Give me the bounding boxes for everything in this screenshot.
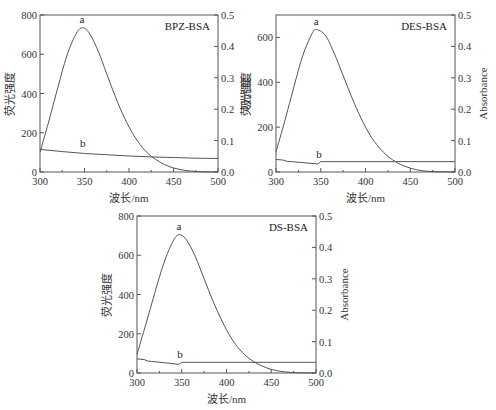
y-left-tick-label: 400 bbox=[21, 89, 37, 100]
panel-title: DS-BSA bbox=[269, 221, 308, 233]
chart-panel-2: 30035040045050002004006000.00.10.20.30.4… bbox=[239, 10, 489, 204]
y-right-axis-title: Absorbance bbox=[477, 67, 489, 120]
y-left-tick-label: 800 bbox=[21, 10, 37, 21]
y-left-tick-label: 400 bbox=[257, 77, 273, 88]
y-left-tick-label: 600 bbox=[257, 32, 273, 43]
y-left-tick-label: 0 bbox=[32, 167, 37, 178]
curve-a bbox=[276, 30, 455, 172]
y-right-tick-label: 0.5 bbox=[319, 211, 332, 222]
y-left-tick-label: 200 bbox=[257, 122, 273, 133]
curve-b bbox=[40, 149, 218, 158]
y-right-tick-label: 0.4 bbox=[458, 41, 472, 52]
curve-label-b: b bbox=[177, 348, 183, 360]
y-left-axis-title: 荧光强度 bbox=[239, 72, 252, 116]
curve-label-b: b bbox=[316, 148, 322, 160]
x-axis-title: 波长/nm bbox=[346, 192, 386, 204]
y-right-tick-label: 0.3 bbox=[458, 73, 471, 84]
plot-frame bbox=[276, 15, 455, 172]
curve-a bbox=[40, 28, 218, 172]
y-right-tick-label: 0.0 bbox=[319, 368, 332, 379]
y-right-tick-label: 0.2 bbox=[221, 104, 234, 115]
x-tick-label: 450 bbox=[402, 176, 418, 187]
x-tick-label: 350 bbox=[313, 176, 329, 187]
x-tick-label: 450 bbox=[263, 377, 279, 388]
y-right-tick-label: 0.0 bbox=[221, 167, 234, 178]
y-right-tick-label: 0.3 bbox=[221, 73, 234, 84]
curve-label-a: a bbox=[314, 15, 319, 27]
curve-b bbox=[276, 159, 455, 163]
chart-panel-1: 30035040045050002004006008000.00.10.20.3… bbox=[3, 10, 252, 204]
x-tick-label: 400 bbox=[358, 176, 374, 187]
y-left-tick-label: 600 bbox=[21, 49, 37, 60]
x-tick-label: 350 bbox=[174, 377, 190, 388]
curve-a bbox=[137, 235, 316, 373]
y-left-axis-title: 荧光强度 bbox=[100, 273, 113, 317]
panel-title: BPZ-BSA bbox=[165, 20, 210, 32]
y-right-tick-label: 0.0 bbox=[458, 167, 471, 178]
x-axis-title: 波长/nm bbox=[109, 192, 149, 204]
y-right-tick-label: 0.1 bbox=[221, 136, 234, 147]
x-tick-label: 400 bbox=[121, 176, 137, 187]
x-tick-label: 450 bbox=[166, 176, 182, 187]
y-right-tick-label: 0.3 bbox=[319, 274, 332, 285]
y-right-axis-title: Absorbance bbox=[338, 268, 350, 321]
y-right-tick-label: 0.2 bbox=[458, 104, 471, 115]
y-left-tick-label: 400 bbox=[118, 290, 134, 301]
curve-label-b: b bbox=[80, 137, 86, 149]
figure-canvas: 30035040045050002004006008000.00.10.20.3… bbox=[0, 0, 496, 410]
y-left-tick-label: 0 bbox=[129, 368, 134, 379]
y-right-tick-label: 0.2 bbox=[319, 305, 332, 316]
y-right-tick-label: 0.4 bbox=[221, 41, 235, 52]
y-left-tick-label: 200 bbox=[118, 329, 134, 340]
y-left-tick-label: 600 bbox=[118, 250, 134, 261]
y-right-tick-label: 0.1 bbox=[458, 136, 471, 147]
plot-frame bbox=[40, 15, 218, 172]
curve-label-a: a bbox=[79, 13, 84, 25]
y-right-tick-label: 0.5 bbox=[221, 10, 234, 21]
curve-label-a: a bbox=[177, 220, 182, 232]
y-right-tick-label: 0.5 bbox=[458, 10, 471, 21]
y-right-tick-label: 0.4 bbox=[319, 242, 333, 253]
x-tick-label: 350 bbox=[77, 176, 93, 187]
plot-frame bbox=[137, 216, 316, 373]
y-left-tick-label: 200 bbox=[21, 128, 37, 139]
curve-b bbox=[137, 359, 316, 364]
chart-panel-3: 30035040045050002004006008000.00.10.20.3… bbox=[100, 211, 350, 405]
y-left-axis-title: 荧光强度 bbox=[3, 72, 16, 116]
panel-title: DES-BSA bbox=[401, 20, 447, 32]
x-axis-title: 波长/nm bbox=[207, 393, 247, 405]
y-left-tick-label: 800 bbox=[118, 211, 134, 222]
y-left-tick-label: 0 bbox=[268, 167, 273, 178]
x-tick-label: 400 bbox=[219, 377, 235, 388]
y-right-tick-label: 0.1 bbox=[319, 337, 332, 348]
